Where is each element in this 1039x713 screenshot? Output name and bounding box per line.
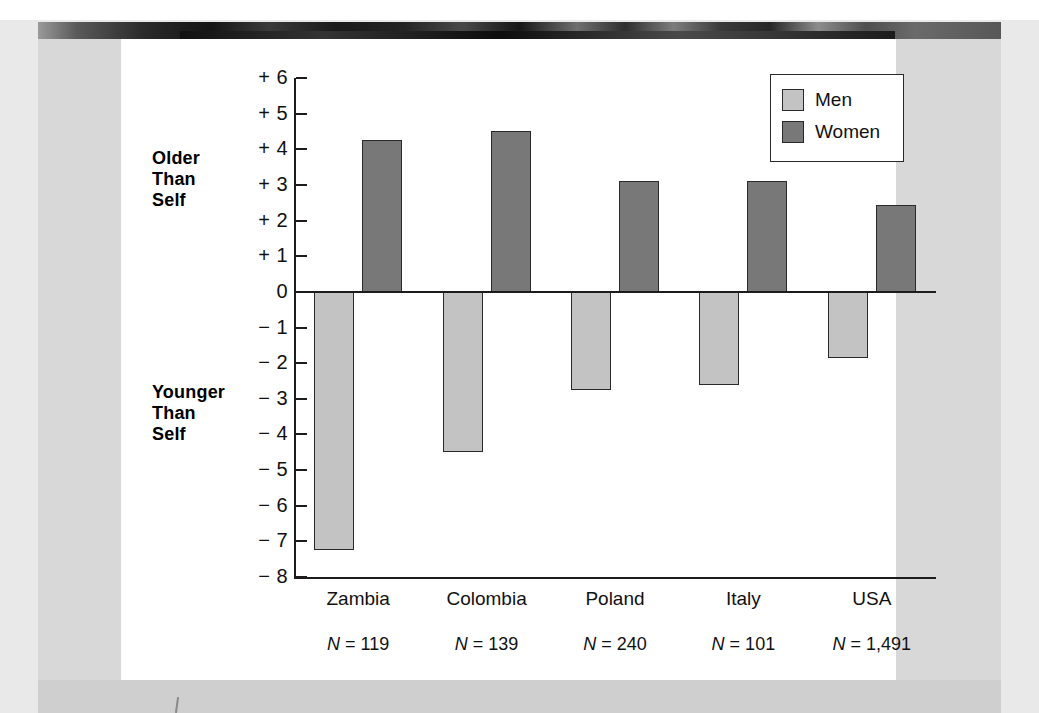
- y-axis-tick: [296, 433, 307, 435]
- annotation-younger-line-3: Self: [152, 424, 225, 445]
- bar-italy-women: [747, 181, 787, 291]
- sample-size-colombia: N = 139: [417, 634, 557, 655]
- y-axis-tick-label-text: − 8: [242, 566, 288, 586]
- x-axis-label-usa: USA: [802, 588, 942, 610]
- y-axis-tick-label-text: − 4: [242, 423, 288, 443]
- y-axis-tick: [296, 255, 307, 257]
- y-axis-tick-label-text: − 2: [242, 352, 288, 372]
- y-axis-tick: [296, 77, 307, 79]
- y-axis-tick: [296, 469, 307, 471]
- sample-size-symbol: N: [833, 634, 846, 654]
- legend-label-women: Women: [815, 120, 880, 144]
- y-axis-tick-label-text: + 5: [242, 103, 288, 123]
- zero-baseline: [294, 291, 936, 293]
- legend-label-men: Men: [815, 88, 852, 112]
- x-axis-label-italy: Italy: [673, 588, 813, 610]
- y-axis-tick-label: − 1: [230, 317, 288, 337]
- x-axis-line: [294, 577, 936, 579]
- y-axis-tick-label: + 4: [230, 138, 288, 158]
- y-axis-tick: [296, 327, 307, 329]
- y-axis-tick-label-text: − 1: [242, 317, 288, 337]
- y-axis-tick-label: − 4: [230, 423, 288, 443]
- y-axis-tick-label: − 2: [230, 352, 288, 372]
- x-axis-label-zambia: Zambia: [288, 588, 428, 610]
- x-axis-label-colombia: Colombia: [417, 588, 557, 610]
- y-axis-tick: [296, 113, 307, 115]
- y-axis-tick-label-text: − 7: [242, 530, 288, 550]
- legend-swatch-women: [782, 121, 804, 143]
- y-axis-tick: [296, 398, 307, 400]
- sample-size-poland: N = 240: [545, 634, 685, 655]
- sample-size-symbol: N: [583, 634, 596, 654]
- y-axis-tick: [296, 540, 307, 542]
- y-axis-tick-label-text: − 3: [242, 388, 288, 408]
- y-axis-tick-label: + 2: [230, 210, 288, 230]
- bar-usa-men: [828, 292, 868, 358]
- annotation-older-than-self: Older Than Self: [152, 148, 200, 211]
- y-axis-tick: [296, 576, 307, 578]
- bar-chart: + 6+ 5+ 4+ 3+ 2+ 10− 1− 2− 3− 4− 5− 6− 7…: [0, 0, 1039, 713]
- bar-italy-men: [699, 292, 739, 385]
- annotation-younger-than-self: Younger Than Self: [152, 382, 225, 445]
- y-axis-tick-label-text: + 4: [242, 138, 288, 158]
- y-axis-tick-label: − 3: [230, 388, 288, 408]
- y-axis-tick-label-text: − 5: [242, 459, 288, 479]
- y-axis-tick-label: − 6: [230, 495, 288, 515]
- bar-poland-men: [571, 292, 611, 390]
- y-axis-tick-label: + 3: [230, 174, 288, 194]
- y-axis-tick-label: + 6: [230, 67, 288, 87]
- y-axis-tick-label-text: + 2: [242, 210, 288, 230]
- y-axis-tick-label: − 5: [230, 459, 288, 479]
- sample-size-symbol: N: [327, 634, 340, 654]
- y-axis-tick: [296, 220, 307, 222]
- y-axis-tick: [296, 362, 307, 364]
- x-axis-label-poland: Poland: [545, 588, 685, 610]
- annotation-younger-line-2: Than: [152, 403, 225, 424]
- y-axis-tick-label-text: − 6: [242, 495, 288, 515]
- sample-size-symbol: N: [712, 634, 725, 654]
- y-axis-tick-label-text: + 1: [242, 245, 288, 265]
- y-axis-tick-label: + 1: [230, 245, 288, 265]
- y-axis-tick-label: − 7: [230, 530, 288, 550]
- y-axis-tick-label: − 8: [230, 566, 288, 586]
- sample-size-italy: N = 101: [673, 634, 813, 655]
- bar-poland-women: [619, 181, 659, 291]
- y-axis-tick: [296, 184, 307, 186]
- bar-usa-women: [876, 205, 916, 292]
- y-axis-tick: [296, 505, 307, 507]
- sample-size-symbol: N: [455, 634, 468, 654]
- y-axis-tick: [296, 148, 307, 150]
- bar-colombia-men: [443, 292, 483, 452]
- annotation-older-line-2: Than: [152, 169, 200, 190]
- annotation-older-line-3: Self: [152, 190, 200, 211]
- y-axis-tick-label: + 5: [230, 103, 288, 123]
- sample-size-usa: N = 1,491: [802, 634, 942, 655]
- y-axis-tick-label-text: + 3: [242, 174, 288, 194]
- annotation-younger-line-1: Younger: [152, 382, 225, 403]
- bar-zambia-men: [314, 292, 354, 550]
- y-axis-tick-label-text: 0: [242, 281, 288, 301]
- sample-size-zambia: N = 119: [288, 634, 428, 655]
- y-axis-tick-label-text: + 6: [242, 67, 288, 87]
- bar-colombia-women: [491, 131, 531, 291]
- bar-zambia-women: [362, 140, 402, 291]
- annotation-older-line-1: Older: [152, 148, 200, 169]
- y-axis-tick-label: 0: [230, 281, 288, 301]
- chart-legend: Men Women: [770, 74, 904, 162]
- legend-swatch-men: [782, 89, 804, 111]
